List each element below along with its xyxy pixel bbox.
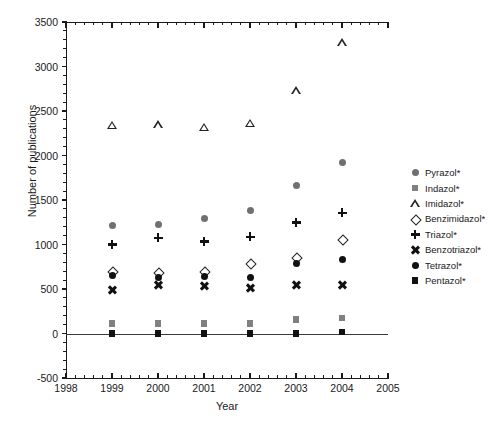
data-point: [289, 256, 303, 270]
gray-circle-marker-icon: [155, 221, 162, 228]
data-point: [151, 218, 165, 232]
open-triangle-marker-icon: [291, 86, 301, 94]
data-point: [335, 278, 349, 292]
legend-marker: [408, 258, 422, 272]
black-circle-marker-icon: [412, 262, 419, 269]
data-point: [197, 327, 211, 341]
black-circle-marker-icon: [109, 272, 116, 279]
data-point: [289, 84, 303, 98]
data-point: [197, 270, 211, 284]
cross-marker-icon: [107, 284, 118, 295]
legend-item: Benzotriazol*: [408, 242, 499, 257]
black-circle-marker-icon: [339, 256, 346, 263]
open-triangle-marker-icon: [245, 119, 255, 127]
data-point: [105, 118, 119, 132]
legend-marker: [408, 243, 422, 257]
data-point: [243, 327, 257, 341]
data-point: [289, 216, 303, 230]
data-point: [289, 327, 303, 341]
data-point: [105, 218, 119, 232]
legend-marker: [408, 212, 422, 226]
legend-label: Imidazol*: [425, 198, 464, 209]
data-point: [197, 120, 211, 134]
data-point: [335, 253, 349, 267]
legend-marker: [408, 166, 422, 180]
legend-label: Tetrazol*: [425, 260, 462, 271]
legend-label: Benzimidazol*: [425, 213, 485, 224]
data-point: [243, 116, 257, 130]
black-square-marker-icon: [339, 329, 346, 336]
legend-marker: [408, 196, 422, 210]
publications-scatter-chart: Number of publications Year -50005001000…: [0, 0, 499, 423]
data-point: [243, 271, 257, 285]
legend-item: Pentazol*: [408, 273, 499, 288]
gray-square-marker-icon: [412, 185, 419, 192]
black-square-marker-icon: [155, 330, 162, 337]
plus-marker-icon: [245, 231, 256, 242]
legend-item: Imidazol*: [408, 196, 499, 211]
black-circle-marker-icon: [155, 274, 162, 281]
legend-label: Benzotriazol*: [425, 244, 481, 255]
black-square-marker-icon: [247, 330, 254, 337]
open-diamond-marker-icon: [410, 214, 421, 225]
gray-circle-marker-icon: [201, 215, 208, 222]
data-point: [243, 230, 257, 244]
legend-item: Tetrazol*: [408, 257, 499, 272]
chart-legend: Pyrazol*Indazol*Imidazol*Benzimidazol*Tr…: [408, 165, 499, 288]
data-point: [335, 35, 349, 49]
data-point: [243, 256, 257, 270]
gray-square-marker-icon: [293, 316, 300, 323]
cross-marker-icon: [291, 280, 302, 291]
data-point: [335, 156, 349, 170]
plus-marker-icon: [107, 239, 118, 250]
data-point: [335, 232, 349, 246]
plus-marker-icon: [291, 217, 302, 228]
plus-marker-icon: [410, 229, 421, 240]
data-point: [335, 325, 349, 339]
black-circle-marker-icon: [201, 273, 208, 280]
legend-label: Triazol*: [425, 229, 457, 240]
legend-label: Pentazol*: [425, 275, 466, 286]
legend-item: Triazol*: [408, 227, 499, 242]
open-triangle-marker-icon: [337, 38, 347, 46]
gray-circle-marker-icon: [339, 159, 346, 166]
data-point: [151, 118, 165, 132]
gray-circle-marker-icon: [412, 169, 419, 176]
data-point: [197, 234, 211, 248]
plus-marker-icon: [337, 207, 348, 218]
legend-label: Pyrazol*: [425, 167, 460, 178]
black-square-marker-icon: [109, 330, 116, 337]
data-point: [151, 327, 165, 341]
black-square-marker-icon: [201, 330, 208, 337]
plus-marker-icon: [199, 236, 210, 247]
legend-item: Indazol*: [408, 180, 499, 195]
data-point: [243, 203, 257, 217]
open-diamond-marker-icon: [337, 234, 348, 245]
cross-marker-icon: [410, 244, 421, 255]
data-point: [335, 311, 349, 325]
legend-item: Pyrazol*: [408, 165, 499, 180]
data-point: [105, 238, 119, 252]
open-triangle-marker-icon: [107, 121, 117, 129]
open-triangle-marker-icon: [153, 120, 163, 128]
data-point: [197, 212, 211, 226]
black-circle-marker-icon: [293, 260, 300, 267]
gray-circle-marker-icon: [247, 207, 254, 214]
open-diamond-marker-icon: [245, 259, 256, 270]
data-point: [151, 231, 165, 245]
open-triangle-marker-icon: [199, 123, 209, 131]
data-point: [289, 313, 303, 327]
data-point: [105, 268, 119, 282]
legend-label: Indazol*: [425, 183, 459, 194]
gray-circle-marker-icon: [109, 222, 116, 229]
gray-square-marker-icon: [339, 315, 346, 322]
data-point: [289, 278, 303, 292]
data-point: [105, 327, 119, 341]
data-point: [105, 283, 119, 297]
black-circle-marker-icon: [247, 274, 254, 281]
data-point: [289, 179, 303, 193]
plus-marker-icon: [153, 232, 164, 243]
legend-marker: [408, 181, 422, 195]
legend-marker: [408, 273, 422, 287]
legend-item: Benzimidazol*: [408, 211, 499, 226]
